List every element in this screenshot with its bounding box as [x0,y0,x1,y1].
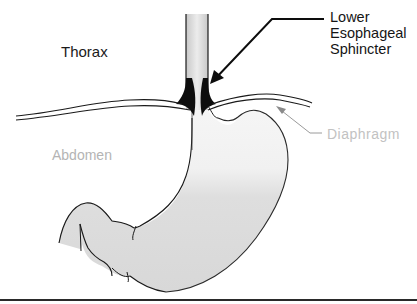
les-label-line2: Esophageal [330,25,407,41]
abdomen-label: Abdomen [52,148,112,162]
les-label-line1: Lower [330,9,407,25]
les-label-line3: Sphincter [330,41,407,57]
thorax-label: Thorax [61,44,108,59]
diaphragm-leader [276,106,322,133]
les-label: Lower Esophageal Sphincter [330,9,407,57]
stomach [59,102,288,292]
diaphragm-label: Diaphragm [327,127,400,141]
les-leader-arrow [210,19,324,84]
